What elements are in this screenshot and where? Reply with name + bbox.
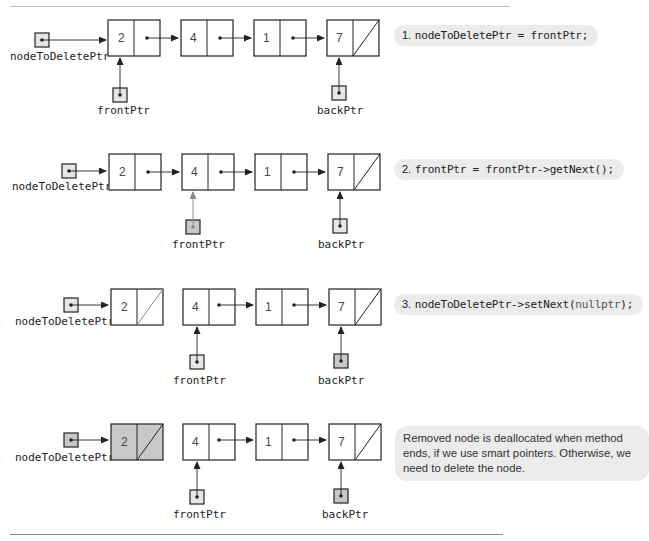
svg-text:2: 2 xyxy=(118,31,125,45)
step-3-number: 3. xyxy=(402,298,411,310)
svg-text:2: 2 xyxy=(119,165,126,179)
svg-text:1: 1 xyxy=(265,300,272,314)
step-1-code: 1.nodeToDeletePtr = frontPtr; xyxy=(394,25,598,46)
svg-text:4: 4 xyxy=(192,435,199,449)
svg-text:4: 4 xyxy=(192,300,199,314)
step-3-code-prefix: nodeToDeletePtr->setNext( xyxy=(415,298,576,311)
svg-text:4: 4 xyxy=(191,165,198,179)
step-3-code-keyword: nullptr xyxy=(575,298,620,311)
svg-text:frontPtr: frontPtr xyxy=(173,374,226,387)
step-3-code: 3.nodeToDeletePtr->setNext(nullptr); xyxy=(394,294,643,315)
svg-text:backPtr: backPtr xyxy=(317,104,364,117)
svg-text:nodeToDeletePtr: nodeToDeletePtr xyxy=(15,315,115,328)
svg-text:frontPtr: frontPtr xyxy=(97,104,150,117)
step-1-code-text: nodeToDeletePtr = frontPtr; xyxy=(415,29,588,42)
label-node-to-delete-ptr: nodeToDeletePtr xyxy=(10,50,110,63)
step-2-number: 2. xyxy=(402,163,411,175)
svg-text:7: 7 xyxy=(338,300,345,314)
svg-text:1: 1 xyxy=(263,31,270,45)
bottom-divider xyxy=(10,534,503,535)
step-2-diagram: nodeToDeletePtr 2 4 1 7 frontPtr backPtr xyxy=(12,154,380,251)
svg-text:2: 2 xyxy=(121,435,128,449)
step-4-note: Removed node is deallocated when method … xyxy=(395,426,649,481)
svg-text:backPtr: backPtr xyxy=(318,374,365,387)
svg-text:frontPtr: frontPtr xyxy=(172,238,225,251)
step-2-code-text: frontPtr = frontPtr->getNext(); xyxy=(415,163,614,176)
svg-text:1: 1 xyxy=(264,165,271,179)
step-1-diagram: nodeToDeletePtr 2 4 1 7 frontPtr ba xyxy=(10,20,379,117)
svg-text:backPtr: backPtr xyxy=(318,238,365,251)
svg-text:7: 7 xyxy=(338,435,345,449)
step-3-diagram: nodeToDeletePtr 2 4 1 7 frontPtr backPtr xyxy=(15,289,381,387)
step-4-diagram: nodeToDeletePtr 2 4 1 7 frontPtr backPtr xyxy=(15,424,381,521)
svg-text:frontPtr: frontPtr xyxy=(173,508,226,521)
svg-text:4: 4 xyxy=(190,31,197,45)
svg-text:2: 2 xyxy=(121,300,128,314)
svg-text:backPtr: backPtr xyxy=(322,508,369,521)
svg-text:7: 7 xyxy=(336,31,343,45)
svg-text:1: 1 xyxy=(265,435,272,449)
svg-text:nodeToDeletePtr: nodeToDeletePtr xyxy=(15,451,115,464)
step-3-code-suffix: ); xyxy=(620,298,633,311)
svg-text:7: 7 xyxy=(337,165,344,179)
step-1-number: 1. xyxy=(402,29,411,41)
svg-text:nodeToDeletePtr: nodeToDeletePtr xyxy=(12,180,112,193)
step-2-code: 2.frontPtr = frontPtr->getNext(); xyxy=(394,159,624,180)
